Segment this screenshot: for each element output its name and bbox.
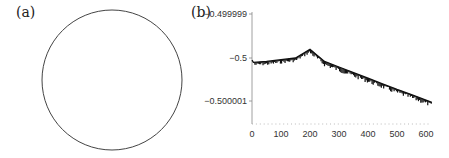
data-series [252, 49, 432, 105]
x-tick-label: 500 [389, 129, 404, 139]
y-tick-label: −0.499999 [204, 9, 247, 19]
panel-a-circle [42, 10, 182, 150]
y-tick-label: −0.500001 [204, 96, 247, 106]
x-tick-label: 0 [249, 129, 254, 139]
x-tick-label: 100 [273, 129, 288, 139]
figure-canvas: −0.499999 −0.5 −0.500001 0 100 200 300 4… [0, 0, 449, 158]
x-tick-label: 600 [418, 129, 433, 139]
x-tick-label: 200 [302, 129, 317, 139]
y-tick-label: −0.5 [229, 53, 247, 63]
x-tick-label: 400 [360, 129, 375, 139]
x-tick-label: 300 [331, 129, 346, 139]
